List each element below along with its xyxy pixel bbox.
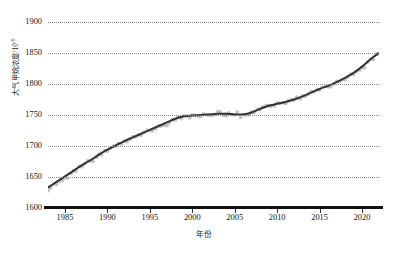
y-axis-ticks: 1600165017001750180018501900 bbox=[0, 0, 42, 256]
gridline bbox=[48, 177, 379, 178]
scatter-points bbox=[48, 52, 379, 193]
gridline bbox=[48, 84, 379, 85]
scatter-point bbox=[235, 110, 239, 114]
gridline bbox=[48, 146, 379, 147]
y-tick-label: 1600 bbox=[0, 204, 42, 212]
methane-concentration-chart: 大气甲烷浓度/10-9 1600165017001750180018501900… bbox=[0, 0, 407, 256]
scatter-point bbox=[165, 124, 169, 128]
x-axis-line bbox=[44, 206, 383, 209]
y-tick-label: 1850 bbox=[0, 49, 42, 57]
y-tick-label: 1900 bbox=[0, 18, 42, 26]
x-tick-label: 2005 bbox=[215, 213, 255, 222]
x-tick-label: 2000 bbox=[172, 213, 212, 222]
x-tick-label: 2020 bbox=[342, 213, 382, 222]
gridline bbox=[48, 115, 379, 116]
x-tick-label: 1990 bbox=[87, 213, 127, 222]
x-tick-label: 2015 bbox=[300, 213, 340, 222]
y-tick-label: 1750 bbox=[0, 111, 42, 119]
plot-area bbox=[48, 22, 379, 208]
x-tick-label: 1995 bbox=[130, 213, 170, 222]
trend-line bbox=[48, 53, 379, 188]
x-tick-label: 1985 bbox=[45, 213, 85, 222]
gridline bbox=[48, 53, 379, 54]
y-tick-label: 1700 bbox=[0, 142, 42, 150]
x-tick-label: 2010 bbox=[257, 213, 297, 222]
y-tick-label: 1800 bbox=[0, 80, 42, 88]
gridline bbox=[48, 22, 379, 23]
y-tick-label: 1650 bbox=[0, 173, 42, 181]
x-axis-title: 年份 bbox=[0, 228, 407, 239]
